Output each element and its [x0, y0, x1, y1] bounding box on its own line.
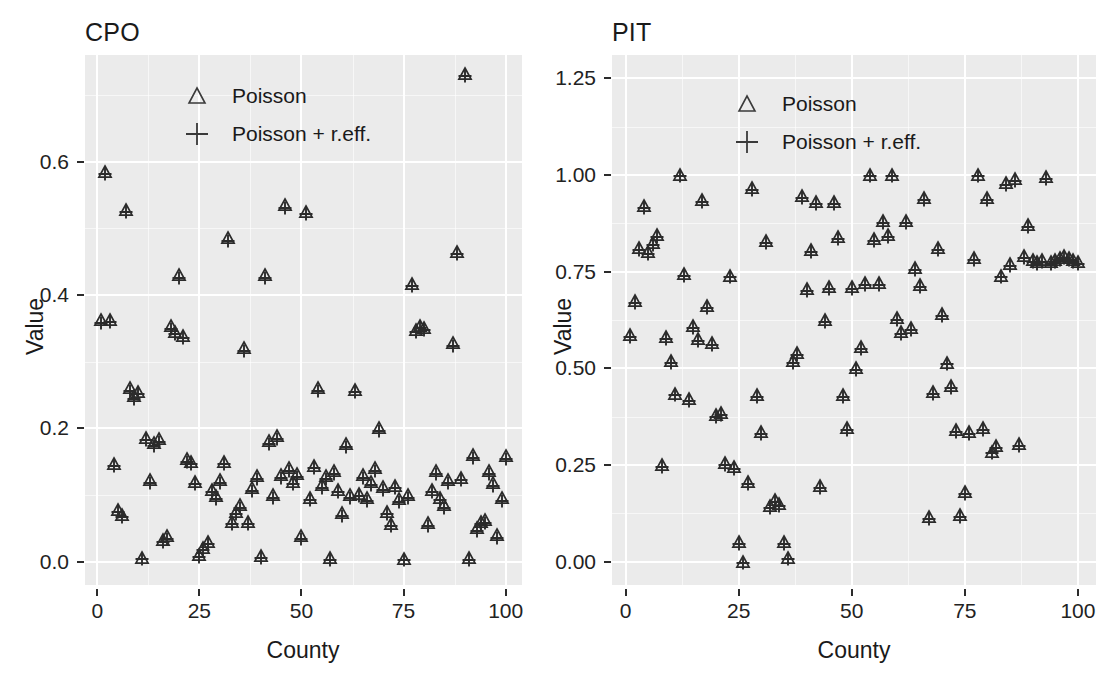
data-point-plus — [862, 169, 877, 184]
data-point-plus — [453, 473, 468, 488]
data-point-plus — [772, 498, 787, 513]
xaxis-title-cpo: County — [267, 637, 340, 664]
data-point-plus — [871, 278, 886, 293]
data-point-plus — [727, 461, 742, 476]
legend-label-poisson-reff: Poisson + r.eff. — [782, 130, 921, 154]
yaxis-title-pit: Value — [550, 298, 577, 355]
data-point-plus — [966, 253, 981, 268]
data-point-plus — [980, 193, 995, 208]
data-point-plus — [265, 490, 280, 505]
data-point-plus — [944, 380, 959, 395]
data-point-plus — [903, 322, 918, 337]
data-point-plus — [804, 245, 819, 260]
data-point-plus — [930, 243, 945, 258]
data-point-plus — [926, 386, 941, 401]
data-point-plus — [404, 279, 419, 294]
xtick-label: 75 — [953, 599, 976, 623]
ytick-mark — [77, 294, 84, 296]
data-point-plus — [921, 512, 936, 527]
ytick-label: 0.25 — [540, 453, 596, 477]
ytick-mark — [604, 464, 611, 466]
ytick-mark — [604, 174, 611, 176]
data-point-plus — [627, 295, 642, 310]
xtick-label: 100 — [1060, 599, 1095, 623]
data-point-plus — [212, 476, 227, 491]
gridline-minor-horizontal — [612, 320, 1096, 321]
data-point-plus — [416, 323, 431, 338]
data-point-plus — [1012, 438, 1027, 453]
data-point-plus — [188, 477, 203, 492]
data-point-plus — [975, 423, 990, 438]
data-point-plus — [989, 440, 1004, 455]
data-point-plus — [298, 207, 313, 222]
data-point-plus — [184, 457, 199, 472]
gridline-major-vertical — [1077, 55, 1079, 585]
gridline-major-horizontal — [85, 161, 522, 163]
xtick-mark — [625, 589, 627, 596]
data-point-plus — [740, 477, 755, 492]
data-point-plus — [781, 552, 796, 567]
data-point-plus — [699, 301, 714, 316]
data-point-plus — [908, 262, 923, 277]
gridline-minor-vertical — [455, 55, 456, 585]
data-point-plus — [445, 338, 460, 353]
gridline-major-horizontal — [85, 561, 522, 563]
data-point-plus — [465, 450, 480, 465]
ytick-label: 0.6 — [0, 150, 69, 174]
triangle-icon — [180, 77, 214, 115]
gridline-major-horizontal — [612, 464, 1096, 466]
data-point-plus — [636, 200, 651, 215]
gridline-minor-vertical — [682, 55, 683, 585]
data-point-plus — [695, 195, 710, 210]
data-point-plus — [347, 385, 362, 400]
data-point-plus — [790, 347, 805, 362]
data-point-plus — [808, 196, 823, 211]
data-point-plus — [437, 500, 452, 515]
panel-cpo: CPO Poisson Poisson + r.eff. — [0, 0, 545, 673]
data-point-plus — [233, 500, 248, 515]
data-point-plus — [754, 427, 769, 442]
data-point-plus — [457, 69, 472, 84]
data-point-plus — [681, 394, 696, 409]
panel-title-cpo: CPO — [85, 18, 140, 47]
panel-title-pit: PIT — [612, 18, 652, 47]
data-point-plus — [135, 552, 150, 567]
data-point-plus — [421, 518, 436, 533]
data-point-plus — [400, 490, 415, 505]
data-point-plus — [813, 481, 828, 496]
data-point-plus — [257, 270, 272, 285]
ytick-mark — [77, 427, 84, 429]
data-point-plus — [822, 282, 837, 297]
data-point-plus — [957, 487, 972, 502]
gridline-major-vertical — [964, 55, 966, 585]
data-point-plus — [659, 332, 674, 347]
data-point-plus — [269, 432, 284, 447]
gridline-minor-vertical — [1021, 55, 1022, 585]
gridline-minor-horizontal — [85, 362, 522, 363]
data-point-plus — [776, 537, 791, 552]
xtick-mark — [851, 589, 853, 596]
data-point-plus — [722, 270, 737, 285]
ytick-label: 0.00 — [540, 550, 596, 574]
xtick-label: 0 — [91, 599, 103, 623]
data-point-plus — [704, 338, 719, 353]
data-point-plus — [131, 387, 146, 402]
data-point-plus — [1070, 256, 1085, 271]
data-point-plus — [98, 166, 113, 181]
data-point-plus — [278, 200, 293, 215]
gridline-major-horizontal — [85, 294, 522, 296]
data-point-plus — [494, 494, 509, 509]
data-point-plus — [731, 537, 746, 552]
ytick-label: 0.2 — [0, 416, 69, 440]
data-point-plus — [171, 270, 186, 285]
plus-icon — [180, 115, 214, 153]
data-point-plus — [216, 457, 231, 472]
ytick-mark — [77, 561, 84, 563]
gridline-minor-horizontal — [612, 127, 1096, 128]
figure-root: CPO Poisson Poisson + r.eff. — [0, 0, 1101, 673]
data-point-plus — [623, 330, 638, 345]
gridline-major-horizontal — [612, 561, 1096, 563]
plus-icon — [730, 123, 764, 161]
data-point-plus — [384, 519, 399, 534]
xtick-label: 100 — [488, 599, 523, 623]
